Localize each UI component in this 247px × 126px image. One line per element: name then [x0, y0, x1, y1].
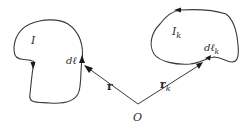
- right-loop-element-main: dℓ: [204, 42, 215, 53]
- left-loop-element-label: dℓ: [66, 55, 77, 66]
- vector-r-label: r: [107, 80, 113, 93]
- left-loop-current-label: I: [30, 34, 36, 47]
- right-loop-element-subscript: k: [215, 47, 220, 56]
- right-loop-current-subscript: k: [176, 31, 181, 40]
- vector-r-line: [88, 68, 138, 104]
- origin-label: O: [133, 111, 142, 124]
- current-loops-diagram: I dℓ Ik dℓk r rk O: [0, 0, 247, 126]
- vector-r-arrowhead: [84, 65, 93, 73]
- left-loop-direction-arrow-down: [31, 62, 36, 69]
- right-current-loop: [151, 10, 238, 65]
- right-loop-current-label: Ik: [171, 25, 181, 40]
- left-loop-direction-arrow-up: [79, 55, 85, 63]
- vector-rk-subscript: k: [166, 84, 171, 93]
- vector-rk-label: rk: [160, 78, 171, 93]
- right-loop-element-label: dℓk: [204, 42, 220, 56]
